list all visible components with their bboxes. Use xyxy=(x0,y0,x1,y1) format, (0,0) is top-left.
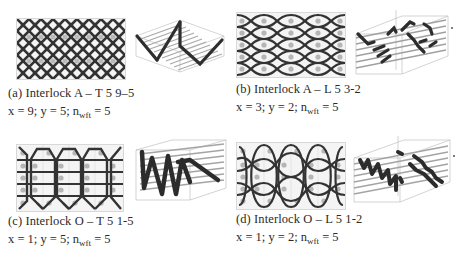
params-sub-d: wft xyxy=(307,236,319,246)
caption-b: (b) Interlock A – L 5 3-2 xyxy=(236,82,361,97)
params-eq-d: = 5 xyxy=(319,230,339,244)
params-text-d: x = 1; y = 2; n xyxy=(236,230,307,244)
params-text-b: x = 3; y = 2; n xyxy=(236,100,307,114)
params-text-a: x = 9; y = 5; n xyxy=(8,104,79,118)
weave-pattern-2d-b xyxy=(236,12,346,78)
params-text-c: x = 1; y = 5; n xyxy=(8,232,79,246)
params-c: x = 1; y = 5; nwft = 5 xyxy=(8,232,111,248)
caption-d: (d) Interlock O – L 5 1-2 xyxy=(236,212,362,227)
params-sub-b: wft xyxy=(307,106,319,116)
weave-3d-view-a xyxy=(132,16,228,78)
params-a: x = 9; y = 5; nwft = 5 xyxy=(8,104,111,120)
weave-pattern-2d-d xyxy=(236,142,346,210)
weave-3d-view-d xyxy=(350,134,458,212)
params-sub-a: wft xyxy=(79,110,91,120)
caption-c: (c) Interlock O – T 5 1-5 xyxy=(8,214,134,229)
params-eq-c: = 5 xyxy=(91,232,111,246)
params-eq-b: = 5 xyxy=(319,100,339,114)
weave-3d-view-c xyxy=(132,136,230,212)
params-eq-a: = 5 xyxy=(91,104,111,118)
params-sub-c: wft xyxy=(79,238,91,248)
weave-pattern-2d-c xyxy=(16,144,124,212)
diamond-lattice-graphic xyxy=(17,19,125,79)
caption-a: (a) Interlock A – T 5 9–5 xyxy=(8,86,134,101)
weave-3d-view-b xyxy=(352,6,460,84)
params-b: x = 3; y = 2; nwft = 5 xyxy=(236,100,339,116)
params-d: x = 1; y = 2; nwft = 5 xyxy=(236,230,339,246)
weave-pattern-2d-a xyxy=(16,18,126,80)
